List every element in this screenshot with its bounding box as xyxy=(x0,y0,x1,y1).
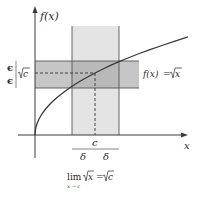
delta-left-label: δ xyxy=(80,151,86,162)
sqrt-c-label: c xyxy=(23,69,28,79)
delta-right-label: δ xyxy=(103,151,109,162)
function-label-rhs: x xyxy=(175,69,180,79)
limit-lim: lim xyxy=(67,172,82,182)
limit-eq: = xyxy=(96,172,104,182)
epsilon-top-label: ϵ xyxy=(7,62,13,73)
x-axis-label: x xyxy=(184,140,190,151)
y-axis-arrow-icon xyxy=(33,6,38,13)
limit-expr-x: x xyxy=(88,172,93,182)
limit-expr-c: c xyxy=(108,172,113,182)
function-label-lhs: f(x) xyxy=(142,69,159,79)
limit-sqrt-diagram: f(x) x f(x) = x ϵ ϵ c c δ δ lim x → c x … xyxy=(0,0,199,198)
x-axis-arrow-icon xyxy=(181,133,188,138)
limit-subscript: x → c xyxy=(67,183,80,189)
c-label: c xyxy=(92,137,98,148)
epsilon-bottom-label: ϵ xyxy=(7,75,13,86)
function-label-eq: = xyxy=(163,69,171,79)
y-axis-label: f(x) xyxy=(39,10,59,23)
